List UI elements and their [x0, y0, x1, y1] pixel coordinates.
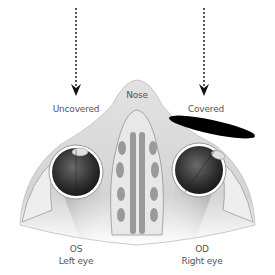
covered-arrow	[199, 8, 209, 96]
uncovered-label: Uncovered	[46, 104, 106, 115]
left-eye-code-label: OS	[56, 244, 96, 255]
nose-label: Nose	[117, 90, 157, 101]
covered-label: Covered	[176, 104, 236, 115]
left-eye-name-label: Left eye	[46, 256, 106, 267]
anatomy-illustration	[0, 0, 275, 275]
cover-test-diagram: Uncovered Nose Covered OS Left eye OD Ri…	[0, 0, 275, 275]
right-eye-name-label: Right eye	[172, 256, 232, 267]
right-eye-code-label: OD	[182, 244, 222, 255]
uncovered-arrow	[71, 8, 81, 96]
